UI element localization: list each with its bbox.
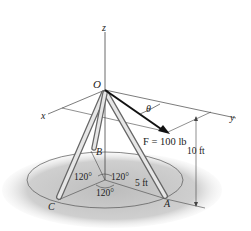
point-c-label: C [48,201,55,212]
origin-label: O [93,78,101,90]
z-axis-label: z [101,22,106,33]
force-label: F = 100 lb [143,136,187,147]
projection-line [168,112,211,132]
point-b-label: B [96,146,102,157]
angle-label-bottom: 120° [96,188,114,198]
point-a-label: A [163,198,171,209]
x-axis-label: x [40,110,46,121]
force-arrowhead [158,125,170,134]
height-label: 10 ft [187,146,205,156]
tripod-diagram: z x y O B C A θ F = 100 lb 10 ft 5 ft 12… [0,0,251,231]
angle-label-left: 120° [74,172,92,182]
radius-label: 5 ft [135,178,148,188]
angle-label-right: 120° [111,172,129,182]
y-axis-label: y [229,112,235,123]
theta-label: θ [146,103,151,114]
